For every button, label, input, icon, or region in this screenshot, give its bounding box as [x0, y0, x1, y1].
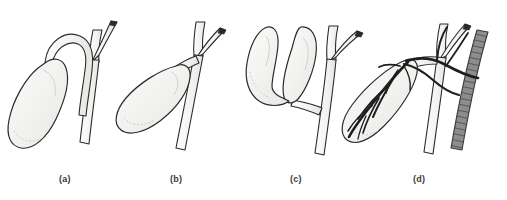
- common-bile-duct: [424, 57, 446, 154]
- gallbladder: [116, 65, 190, 133]
- panel-d-illustration: [342, 24, 488, 154]
- right-hepatic-duct-cut-end: [110, 21, 117, 26]
- common-cystic-duct: [291, 100, 322, 115]
- panel-b-illustration: [116, 22, 226, 150]
- panel-caption-d: (d): [413, 174, 425, 184]
- panel-caption-a: (a): [59, 174, 71, 184]
- gallbladder-lobe-right: [283, 27, 316, 103]
- panel-a-illustration: [8, 21, 117, 148]
- panel-caption-c: (c): [290, 174, 302, 184]
- figure-panel-group: (a) (b) (c) (d): [0, 0, 507, 200]
- panel-caption-b: (b): [170, 174, 182, 184]
- illustration-canvas: [0, 0, 507, 200]
- portal-vein: [451, 30, 488, 150]
